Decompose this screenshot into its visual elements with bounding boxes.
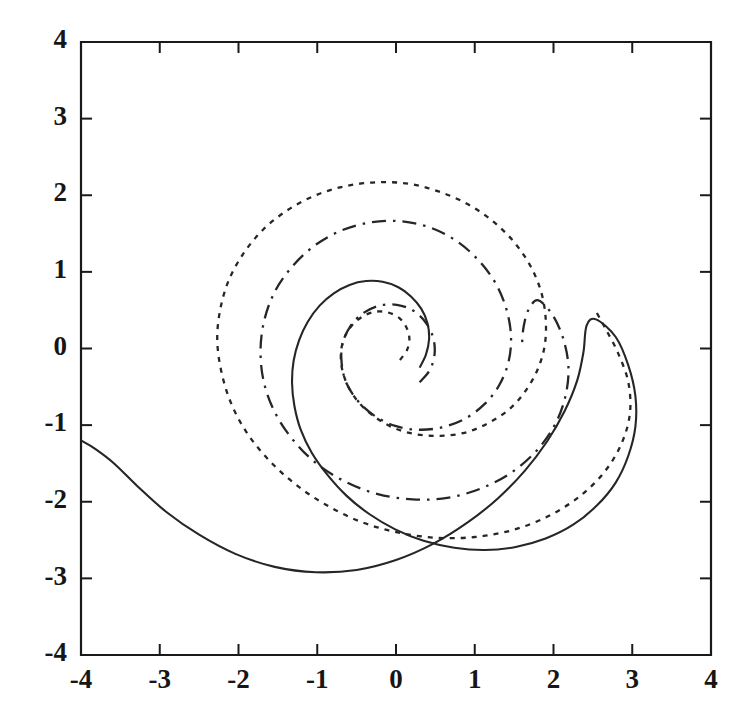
- figure-container: -4-3-2-101234-4-3-2-101234: [0, 0, 731, 711]
- y-tick-label: -3: [45, 561, 68, 591]
- x-tick-label: 3: [626, 664, 640, 694]
- curve-dash-dot-spiral: [261, 221, 569, 500]
- axis-frame: [81, 42, 711, 655]
- x-tick-label: 4: [704, 664, 718, 694]
- x-tick-label: -4: [70, 664, 93, 694]
- x-tick-label: 2: [547, 664, 561, 694]
- y-tick-label: 1: [54, 254, 68, 284]
- y-tick-label: 4: [54, 24, 68, 54]
- y-tick-label: -4: [45, 637, 68, 667]
- x-tick-label: 0: [389, 664, 403, 694]
- x-tick-label: 1: [468, 664, 482, 694]
- axis-box: [81, 42, 711, 655]
- x-tick-label: -3: [149, 664, 172, 694]
- y-tick-label: 3: [54, 101, 68, 131]
- y-tick-label: -2: [45, 484, 68, 514]
- y-tick-label: 0: [54, 331, 68, 361]
- y-tick-label: -1: [45, 407, 68, 437]
- tick-labels: -4-3-2-101234-4-3-2-101234: [45, 24, 718, 694]
- spiral-plot: -4-3-2-101234-4-3-2-101234: [0, 0, 731, 711]
- tick-marks: [81, 42, 711, 655]
- data-curves: [81, 182, 636, 572]
- curve-solid-spiral: [81, 281, 636, 573]
- y-tick-label: 2: [54, 177, 68, 207]
- x-tick-label: -2: [227, 664, 250, 694]
- x-tick-label: -1: [306, 664, 329, 694]
